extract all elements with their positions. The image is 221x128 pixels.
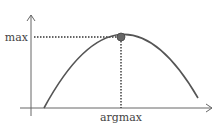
max-label: max [5,31,29,44]
max-point [117,33,125,41]
argmax-label: argmax [100,111,143,124]
diagram-canvas: max argmax [0,0,221,128]
y-axis [27,15,35,116]
argmax-diagram: max argmax [0,0,221,128]
